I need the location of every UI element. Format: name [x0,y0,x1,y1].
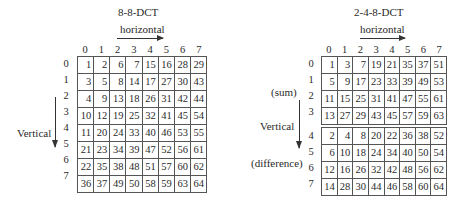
table-row: 1327294345575963 [322,108,447,125]
table-cell: 6 [110,57,126,74]
row-index: 3 [60,104,72,120]
table-row: 59172333394953 [322,74,447,91]
table-cell: 8 [353,128,369,145]
table-cell: 37 [415,57,431,74]
table-cell: 15 [142,57,158,74]
table-cell: 50 [415,145,431,162]
table-cell: 11 [78,125,94,142]
table-row: 1216263242485662 [322,162,447,179]
table-cell: 24 [110,125,126,142]
table-cell: 23 [94,142,110,159]
table-cell: 20 [368,128,384,145]
table-row: 1012192532414554 [78,108,207,125]
table-cell: 64 [431,179,447,196]
table-cell: 8 [110,74,126,91]
col-index: 0 [77,44,93,55]
table-cell: 10 [78,108,94,125]
left-vertical-label: Vertical [17,127,51,139]
row-index: 4 [305,128,317,144]
table-cell: 4 [78,91,94,108]
left-vertical-arrow-icon [55,97,56,147]
table-cell: 40 [400,145,416,162]
left-col-indices: 01234567 [77,44,207,55]
table-cell: 41 [384,91,400,108]
table-cell: 9 [94,91,110,108]
table-cell: 48 [400,162,416,179]
row-index: 7 [60,168,72,184]
table-cell: 58 [142,176,158,193]
table-cell: 54 [431,145,447,162]
table-cell: 7 [353,57,369,74]
table-cell: 57 [158,159,174,176]
table-cell: 34 [384,145,400,162]
table-cell: 13 [110,91,126,108]
table-cell: 12 [94,108,110,125]
row-index: 5 [60,136,72,152]
table-cell: 1 [322,57,338,74]
table-cell: 52 [431,128,447,145]
table-cell: 1 [78,57,94,74]
table-cell: 16 [337,162,353,179]
table-cell: 33 [384,74,400,91]
col-index: 3 [368,44,384,55]
table-cell: 30 [174,74,190,91]
table-cell: 16 [158,57,174,74]
table-cell: 34 [110,142,126,159]
table-cell: 5 [94,74,110,91]
table-cell: 18 [353,145,369,162]
table-cell: 47 [142,142,158,159]
right-horizontal-label: horizontal [360,23,405,35]
table-row: 1428304446586064 [322,179,447,196]
table-row: 2482022363852 [322,128,447,145]
table-cell: 43 [368,108,384,125]
table-cell: 33 [126,125,142,142]
table-cell: 49 [415,74,431,91]
row-index: 6 [305,160,317,176]
left-dct-grid: 1267151628293581417273043491318263142441… [77,56,207,193]
col-index: 6 [416,44,432,55]
table-cell: 3 [337,57,353,74]
col-index: 0 [321,44,337,55]
table-cell: 41 [158,108,174,125]
table-cell: 20 [94,125,110,142]
table-cell: 62 [190,159,206,176]
table-cell: 17 [142,74,158,91]
table-cell: 3 [78,74,94,91]
table-cell: 54 [190,108,206,125]
right-horizontal-arrow-icon [360,38,405,39]
table-cell: 59 [415,108,431,125]
col-index: 5 [158,44,174,55]
table-cell: 53 [431,74,447,91]
table-cell: 31 [158,91,174,108]
table-cell: 9 [337,74,353,91]
row-index: 1 [305,72,317,88]
table-cell: 48 [126,159,142,176]
table-cell: 51 [431,57,447,74]
table-cell: 14 [322,179,338,196]
table-cell: 19 [110,108,126,125]
table-cell: 32 [368,162,384,179]
table-cell: 63 [431,108,447,125]
table-cell: 46 [384,179,400,196]
table-cell: 63 [174,176,190,193]
table-row: 1371921353751 [322,57,447,74]
left-horizontal-arrow-icon [117,38,163,39]
table-cell: 5 [322,74,338,91]
right-vertical-arrow-icon [299,100,300,148]
right-sum-row-indices: 0123 [305,56,317,120]
col-index: 6 [175,44,191,55]
left-row-indices: 01234567 [60,56,72,184]
table-cell: 35 [94,159,110,176]
table-cell: 15 [337,91,353,108]
table-cell: 35 [400,57,416,74]
table-cell: 23 [368,74,384,91]
table-cell: 46 [158,125,174,142]
col-index: 2 [110,44,126,55]
table-cell: 50 [126,176,142,193]
right-diff-grid: 2482022363852610182434405054121626324248… [321,127,447,196]
table-cell: 36 [400,128,416,145]
table-cell: 12 [322,162,338,179]
table-cell: 45 [174,108,190,125]
table-cell: 17 [353,74,369,91]
table-cell: 64 [190,176,206,193]
